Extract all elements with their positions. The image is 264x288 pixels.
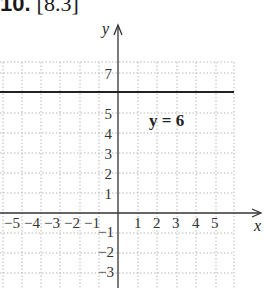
- svg-text:5: 5: [105, 106, 113, 122]
- svg-text:−1: −1: [98, 224, 114, 240]
- svg-text:4: 4: [105, 126, 113, 142]
- svg-text:1: 1: [134, 215, 142, 231]
- svg-text:1: 1: [105, 186, 113, 202]
- svg-text:3: 3: [172, 215, 180, 231]
- svg-text:3: 3: [105, 146, 113, 162]
- x-axis-label: x: [253, 217, 261, 234]
- svg-text:2: 2: [105, 166, 113, 182]
- svg-text:−3: −3: [44, 215, 60, 231]
- equation-label: y = 6: [149, 111, 184, 130]
- grid: [0, 62, 234, 288]
- svg-text:−4: −4: [24, 215, 40, 231]
- svg-text:7: 7: [105, 66, 113, 82]
- svg-text:−2: −2: [64, 215, 80, 231]
- svg-text:5: 5: [211, 215, 219, 231]
- y-tick-labels: 7 5 4 3 2 1 −1 −2 −3: [98, 66, 114, 280]
- svg-text:4: 4: [192, 215, 200, 231]
- coordinate-plane: y x −5 −4 −3 −2 −1 1 2 3 4 5 7 5 4 3 2 1…: [0, 0, 264, 288]
- axes: [0, 25, 261, 288]
- svg-text:−5: −5: [4, 215, 20, 231]
- svg-text:2: 2: [153, 215, 161, 231]
- svg-text:−2: −2: [98, 244, 114, 260]
- y-axis-label: y: [100, 20, 110, 38]
- svg-text:−3: −3: [98, 264, 114, 280]
